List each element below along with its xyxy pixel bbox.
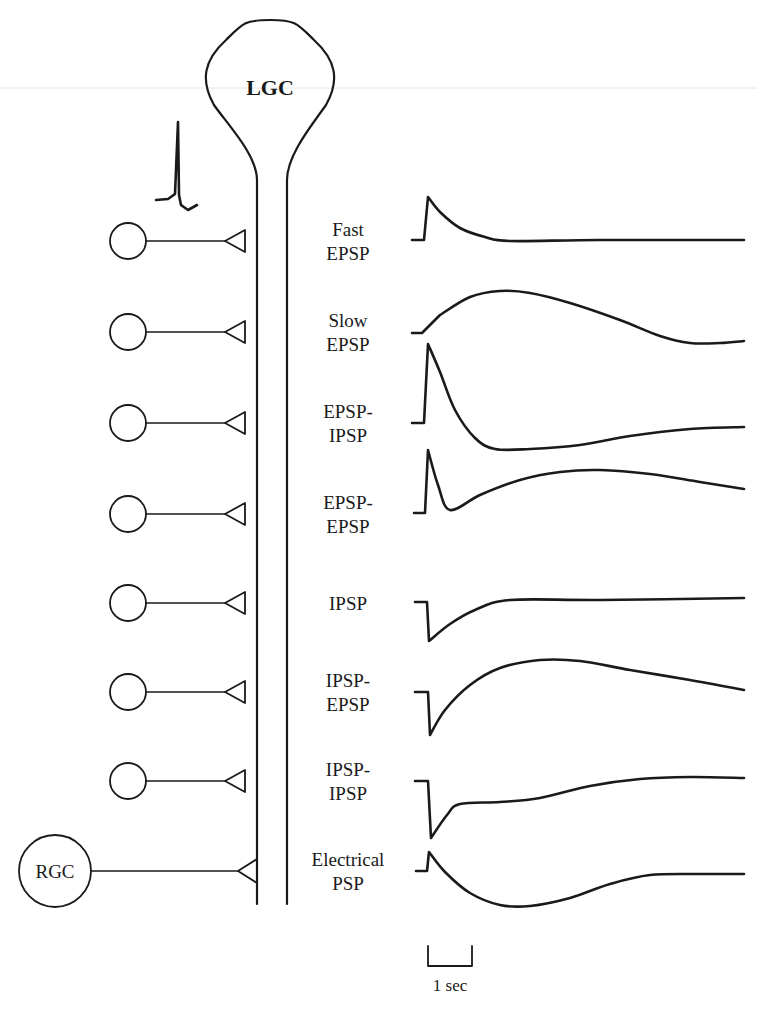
presynaptic-neuron-epsp-ipsp [110, 405, 245, 441]
presynaptic-soma-circle [110, 674, 146, 710]
scale-bar-label: 1 sec [433, 976, 468, 995]
psp-trace-electrical-psp [416, 852, 744, 907]
psp-label-ipsp-epsp: EPSP [326, 694, 369, 715]
scale-bar-bracket [428, 946, 472, 966]
psp-traces [412, 197, 744, 907]
psp-label-fast-epsp: EPSP [326, 243, 369, 264]
psp-label-electrical-psp: Electrical [312, 849, 385, 870]
rgc-label: RGC [35, 861, 74, 882]
psp-label-electrical-psp: PSP [332, 873, 364, 894]
presynaptic-neuron-fast-epsp [110, 223, 245, 259]
presynaptic-neuron-ipsp-epsp [110, 674, 245, 710]
psp-trace-epsp-epsp [414, 450, 744, 513]
psp-label-epsp-ipsp: EPSP- [323, 401, 373, 422]
psp-trace-fast-epsp [412, 197, 744, 241]
psp-trace-ipsp-ipsp [415, 777, 744, 838]
psp-trace-ipsp [415, 598, 744, 641]
synaptic-terminal-triangle [225, 230, 245, 252]
psp-label-ipsp-ipsp: IPSP [329, 783, 367, 804]
psp-label-ipsp: IPSP [329, 593, 367, 614]
synaptic-terminal-triangle [225, 503, 245, 525]
presynaptic-soma-circle [110, 496, 146, 532]
presynaptic-soma-circle [110, 223, 146, 259]
lgc-synaptic-input-diagram: LGC RGC FastEPSPSlowEPSPEPSP-IPSPEPSP-EP… [0, 0, 757, 1010]
presynaptic-inputs: RGC [19, 223, 257, 907]
lgc-label: LGC [246, 75, 294, 100]
synaptic-terminal-triangle [225, 321, 245, 343]
psp-label-ipsp-ipsp: IPSP- [326, 759, 370, 780]
lgc-neuron: LGC [206, 20, 334, 904]
presynaptic-neuron-ipsp-ipsp [110, 763, 245, 799]
synaptic-terminal-triangle [225, 681, 245, 703]
psp-trace-ipsp-epsp [415, 659, 744, 735]
presynaptic-neuron-ipsp [110, 585, 245, 621]
presynaptic-soma-circle [110, 585, 146, 621]
psp-labels: FastEPSPSlowEPSPEPSP-IPSPEPSP-EPSPIPSPIP… [312, 219, 385, 894]
presynaptic-soma-circle [110, 763, 146, 799]
psp-trace-epsp-ipsp [412, 344, 744, 450]
psp-label-epsp-ipsp: IPSP [329, 425, 367, 446]
psp-label-slow-epsp: Slow [328, 310, 367, 331]
synaptic-terminal-triangle [225, 592, 245, 614]
presynaptic-soma-circle [110, 405, 146, 441]
psp-label-epsp-epsp: EPSP- [323, 492, 373, 513]
psp-trace-slow-epsp [412, 291, 744, 344]
psp-label-fast-epsp: Fast [332, 219, 364, 240]
synaptic-terminal-triangle [225, 770, 245, 792]
lgc-soma-outline [206, 20, 334, 904]
presynaptic-neuron-electrical-psp: RGC [19, 835, 257, 907]
synaptic-terminal-triangle [225, 412, 245, 434]
psp-label-epsp-epsp: EPSP [326, 516, 369, 537]
presynaptic-soma-circle [110, 314, 146, 350]
action-potential-spike-icon [156, 122, 197, 210]
presynaptic-neuron-epsp-epsp [110, 496, 245, 532]
synaptic-terminal-triangle [238, 859, 257, 883]
time-scale-bar: 1 sec [428, 946, 472, 995]
psp-label-slow-epsp: EPSP [326, 334, 369, 355]
psp-label-ipsp-epsp: IPSP- [326, 670, 370, 691]
presynaptic-neuron-slow-epsp [110, 314, 245, 350]
